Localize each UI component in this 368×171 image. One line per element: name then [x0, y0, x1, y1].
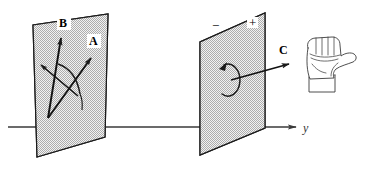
y-axis-label: y	[302, 121, 309, 135]
physics-figure: y B A	[0, 0, 368, 171]
right-plane-texture	[200, 13, 265, 155]
vector-A-label-group: A	[87, 34, 101, 48]
vector-cross-product-diagram: y B A	[0, 0, 368, 171]
vector-A-label: A	[89, 34, 98, 48]
plus-sign-group: +	[247, 15, 258, 30]
vector-B-label-group: B	[57, 16, 71, 30]
vector-C-label: C	[279, 43, 288, 57]
left-plane-group: B A	[33, 14, 108, 157]
plus-sign-label: +	[249, 15, 256, 30]
right-plane-group: − + C	[200, 13, 291, 155]
right-hand-icon	[307, 37, 356, 92]
vector-B-label: B	[59, 16, 67, 30]
minus-sign-label: −	[212, 18, 219, 33]
vector-C-label-group: C	[277, 43, 291, 57]
